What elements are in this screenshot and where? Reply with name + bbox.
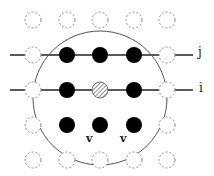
label-v-right: v (120, 133, 126, 144)
row-label-j: j (198, 46, 202, 58)
empty-node-dashed (159, 47, 175, 63)
empty-node-dashed (159, 152, 175, 168)
filled-node (92, 47, 108, 63)
lattice-diagram: j i v v (0, 0, 214, 176)
empty-node-dashed (159, 12, 175, 28)
empty-node-dashed (59, 12, 75, 28)
empty-node-dashed (159, 117, 175, 133)
center-node-hatched (92, 82, 108, 98)
filled-node (59, 82, 75, 98)
label-v-left: v (86, 133, 92, 144)
empty-node-dashed (25, 117, 41, 133)
row-label-i: i (199, 82, 203, 94)
filled-node (126, 47, 142, 63)
filled-node (59, 117, 75, 133)
empty-node-dashed (92, 152, 108, 168)
empty-node-dashed (126, 12, 142, 28)
filled-node (92, 117, 108, 133)
empty-node-dashed (92, 12, 108, 28)
empty-node-dashed (25, 82, 41, 98)
filled-node (126, 117, 142, 133)
empty-node-dashed (159, 82, 175, 98)
diagram-canvas (0, 0, 214, 176)
filled-node (59, 47, 75, 63)
empty-node-dashed (126, 152, 142, 168)
filled-node (126, 82, 142, 98)
empty-node-dashed (25, 152, 41, 168)
empty-node-dashed (59, 152, 75, 168)
empty-node-dashed (25, 47, 41, 63)
empty-node-dashed (25, 12, 41, 28)
